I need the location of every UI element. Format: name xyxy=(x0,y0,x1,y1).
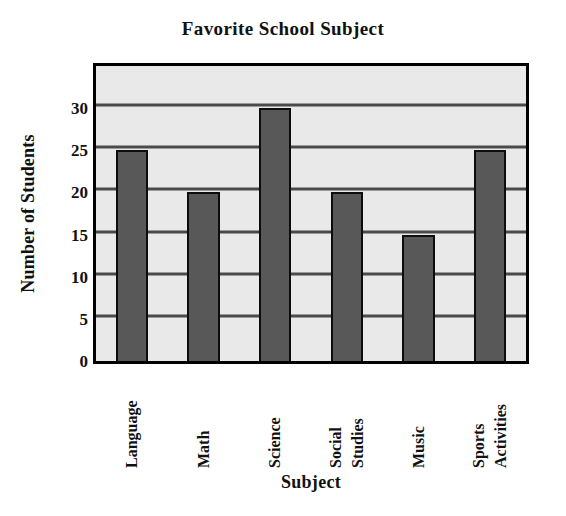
x-axis-tick-labels: LanguageMathScienceSocialStudiesMusicSpo… xyxy=(93,368,529,466)
x-axis-title: Subject xyxy=(93,472,529,493)
plot-area xyxy=(93,63,529,364)
y-tick-label-0: 0 xyxy=(46,353,88,370)
x-tick-label-sports-activities: SportsActivities xyxy=(468,368,512,466)
x-tick-label-line: Math xyxy=(196,431,212,468)
x-tick-label-line: Studies xyxy=(350,418,366,468)
x-tick-label-math: Math xyxy=(193,368,215,466)
y-tick-label-20: 20 xyxy=(46,184,88,201)
bar-social-studies[interactable] xyxy=(331,192,364,361)
bar-math[interactable] xyxy=(187,192,220,361)
x-tick-label-line-wrap: Activities xyxy=(490,444,512,466)
x-tick-label-line: Sports xyxy=(471,424,487,468)
bars-group xyxy=(96,66,526,361)
y-tick-label-25: 25 xyxy=(46,142,88,159)
bar-chart: Favorite School Subject Number of Studen… xyxy=(0,0,566,516)
y-tick-label-10: 10 xyxy=(46,268,88,285)
x-tick-label-line-wrap: Studies xyxy=(347,444,369,466)
bar-science[interactable] xyxy=(259,108,292,361)
y-axis-tick-labels: 051015202530 xyxy=(44,0,88,516)
x-tick-label-line-wrap: Sports xyxy=(468,444,490,466)
y-axis-title-text: Number of Students xyxy=(18,134,39,292)
bar-music[interactable] xyxy=(402,235,435,361)
x-tick-label-social-studies: SocialStudies xyxy=(325,368,369,466)
bar-language[interactable] xyxy=(116,150,149,361)
x-tick-label-line-wrap: Music xyxy=(408,444,430,466)
y-tick-label-30: 30 xyxy=(46,100,88,117)
x-tick-label-line: Language xyxy=(124,400,140,468)
x-tick-label-line: Activities xyxy=(493,404,509,468)
x-tick-label-line-wrap: Math xyxy=(193,444,215,466)
x-tick-label-line: Music xyxy=(411,426,427,468)
x-tick-label-language: Language xyxy=(121,368,143,466)
y-tick-label-15: 15 xyxy=(46,226,88,243)
y-tick-label-5: 5 xyxy=(46,310,88,327)
x-tick-label-line-wrap: Science xyxy=(264,444,286,466)
x-tick-label-line-wrap: Social xyxy=(325,444,347,466)
x-tick-label-music: Music xyxy=(408,368,430,466)
x-tick-label-science: Science xyxy=(264,368,286,466)
y-axis-title: Number of Students xyxy=(14,63,42,364)
x-tick-label-line: Social xyxy=(328,427,344,468)
bar-sports-activities[interactable] xyxy=(474,150,507,361)
x-tick-label-line: Science xyxy=(267,417,283,468)
x-tick-label-line-wrap: Language xyxy=(121,444,143,466)
